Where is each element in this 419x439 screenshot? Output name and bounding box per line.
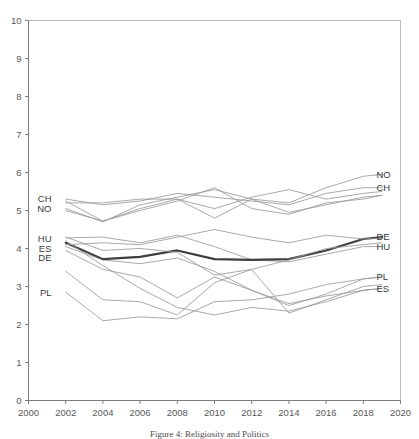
series-line-at <box>66 237 382 275</box>
y-tick-label: 8 <box>16 91 21 102</box>
series-line-ie <box>66 241 382 315</box>
y-tick-label: 6 <box>16 167 21 178</box>
x-tick-label: 2006 <box>130 407 151 418</box>
x-tick-label: 2018 <box>353 407 374 418</box>
figure-caption: Figure 4: Religiosity and Politics <box>0 429 419 439</box>
series-lines <box>66 174 382 320</box>
x-axis-ticks: 2000200220042006200820102012201420162018… <box>18 401 411 418</box>
left-label-no: NO <box>37 203 51 214</box>
left-label-pl: PL <box>40 287 52 298</box>
series-line-nl <box>66 190 382 222</box>
y-tick-label: 4 <box>16 243 21 254</box>
x-tick-label: 2002 <box>55 407 76 418</box>
series-line-de <box>66 237 382 260</box>
y-tick-label: 7 <box>16 129 21 140</box>
x-tick-label: 2016 <box>316 407 337 418</box>
x-tick-label: 2012 <box>241 407 262 418</box>
y-tick-label: 0 <box>16 395 21 406</box>
right-label-ch: CH <box>377 182 391 193</box>
y-tick-label: 9 <box>16 53 21 64</box>
right-label-hu: HU <box>377 241 391 252</box>
series-line-gb <box>66 195 382 218</box>
y-tick-label: 10 <box>11 15 22 26</box>
left-label-de: DE <box>38 252 51 263</box>
y-tick-label: 2 <box>16 319 21 330</box>
y-tick-label: 1 <box>16 357 21 368</box>
y-tick-label: 3 <box>16 281 21 292</box>
right-label-pl: PL <box>377 271 389 282</box>
plot-frame <box>29 21 401 401</box>
right-label-es: ES <box>377 283 390 294</box>
x-tick-label: 2008 <box>167 407 188 418</box>
series-line-es <box>66 247 382 304</box>
right-label-no: NO <box>377 169 391 180</box>
series-line-fr <box>66 230 382 245</box>
y-axis-ticks: 012345678910 <box>11 15 29 406</box>
x-tick-label: 2000 <box>18 407 39 418</box>
x-tick-label: 2014 <box>278 407 299 418</box>
series-line-se <box>66 188 382 221</box>
x-tick-label: 2010 <box>204 407 225 418</box>
y-tick-label: 5 <box>16 205 21 216</box>
x-tick-label: 2004 <box>92 407 113 418</box>
x-tick-label: 2020 <box>390 407 411 418</box>
